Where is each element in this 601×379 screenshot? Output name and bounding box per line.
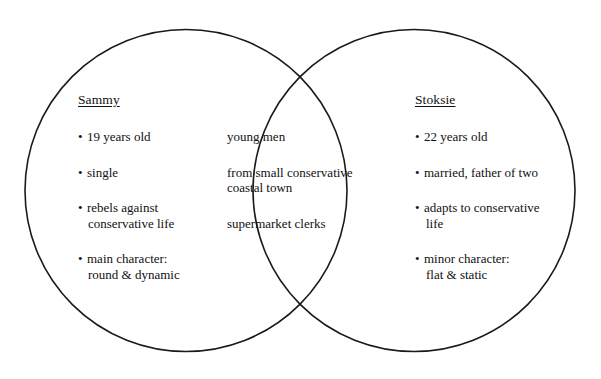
list-item-line2: life <box>424 216 570 232</box>
list-item-line1: young men <box>227 129 285 144</box>
list-item: • minor character: flat & static <box>415 251 570 282</box>
list-item: • main character: round & dynamic <box>78 251 228 282</box>
venn-diagram-canvas: Sammy • 19 years old • single • rebels a… <box>0 0 601 379</box>
list-item-line1: 19 years old <box>87 129 151 144</box>
list-item: • rebels against conservative life <box>78 200 228 231</box>
list-item-line1: main character: <box>87 251 167 266</box>
list-item-line2: round & dynamic <box>87 267 228 283</box>
list-item: • 19 years old <box>78 129 228 145</box>
list-item-line2: flat & static <box>424 267 570 283</box>
right-circle-content: Stoksie • 22 years old • married, father… <box>415 92 570 282</box>
list-item: • 22 years old <box>415 129 570 145</box>
list-item: young men <box>227 129 387 145</box>
right-circle-list: • 22 years old • married, father of two … <box>415 129 570 282</box>
overlap-region-list: young men from small conservative coasta… <box>227 129 387 231</box>
bullet-icon: • <box>78 165 83 181</box>
list-item: supermarket clerks <box>227 216 387 232</box>
bullet-icon: • <box>415 200 420 216</box>
left-circle-title: Sammy <box>78 92 228 107</box>
bullet-icon: • <box>415 129 420 145</box>
list-item-line1: from small conservative <box>227 165 353 180</box>
bullet-icon: • <box>415 251 420 267</box>
list-item-line1: supermarket clerks <box>227 216 326 231</box>
list-item: • adapts to conservative life <box>415 200 570 231</box>
left-circle-content: Sammy • 19 years old • single • rebels a… <box>78 92 228 282</box>
bullet-icon: • <box>78 129 83 145</box>
list-item-line1: adapts to conservative <box>424 200 540 215</box>
list-item: • married, father of two <box>415 165 570 181</box>
bullet-icon: • <box>415 165 420 181</box>
list-item: from small conservative coastal town <box>227 165 387 196</box>
list-item-line1: married, father of two <box>424 165 538 180</box>
list-item-line2: conservative life <box>87 216 228 232</box>
bullet-icon: • <box>78 200 83 216</box>
list-item-line1: 22 years old <box>424 129 488 144</box>
bullet-icon: • <box>78 251 83 267</box>
list-item-line1: rebels against <box>87 200 158 215</box>
left-circle-list: • 19 years old • single • rebels against… <box>78 129 228 282</box>
list-item-line1: single <box>87 165 118 180</box>
right-circle-title: Stoksie <box>415 92 570 107</box>
list-item-line1: minor character: <box>424 251 510 266</box>
list-item: • single <box>78 165 228 181</box>
list-item-line2: coastal town <box>227 180 387 196</box>
overlap-region-content: young men from small conservative coasta… <box>227 129 387 231</box>
